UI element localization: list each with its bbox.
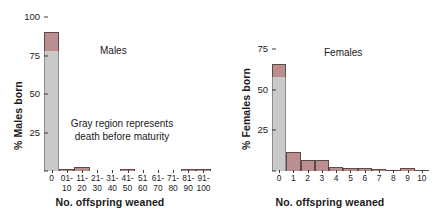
bar-column — [59, 17, 74, 171]
x-tick-mark — [422, 170, 423, 173]
x-tick-mark — [173, 170, 174, 173]
x-tick-label: 3 — [315, 174, 329, 184]
bar-column — [315, 49, 329, 171]
bar-column — [329, 49, 343, 171]
x-tick-label: 41- 50 — [120, 174, 135, 193]
bar-column — [272, 49, 286, 171]
bar-column — [400, 49, 414, 171]
y-tick-mark — [272, 49, 276, 50]
y-tick-label: 75 — [257, 44, 268, 54]
x-tick-label: 91- 100 — [196, 174, 211, 193]
x-tick-mark — [408, 170, 409, 173]
plot-area-females: 255075 — [272, 49, 429, 171]
x-tick-mark — [97, 170, 98, 173]
y-tick-mark — [44, 94, 48, 95]
y-tick-mark — [44, 171, 48, 172]
bar-column — [90, 17, 105, 171]
x-tick-mark — [365, 170, 366, 173]
panel-title-females: Females — [324, 47, 362, 58]
bar-group-females — [272, 49, 429, 171]
x-tick-label: 31- 40 — [105, 174, 120, 193]
x-tick-labels-males: 001- 1011- 2021- 3031- 4041- 5051 6061- … — [44, 174, 211, 193]
x-tick-label: 8 — [386, 174, 400, 184]
y-tick-label: 25 — [257, 126, 268, 136]
x-tick-mark — [52, 170, 53, 173]
x-tick-label: 01- 10 — [59, 174, 74, 193]
x-tick-label: 11- 20 — [74, 174, 89, 193]
annotation-gray-region: Gray region represents death before matu… — [52, 118, 192, 143]
x-tick-mark — [67, 170, 68, 173]
x-tick-mark — [188, 170, 189, 173]
x-tick-mark — [350, 170, 351, 173]
x-tick-mark — [322, 170, 323, 173]
bar-segment-died — [272, 77, 286, 171]
x-tick-label: 81- 90 — [181, 174, 196, 193]
panel-females: % Females born 255075 012345678910 No. o… — [220, 0, 440, 217]
x-tick-label: 51 60 — [135, 174, 150, 193]
x-tick-mark — [143, 170, 144, 173]
x-tick-label: 6 — [358, 174, 372, 184]
y-tick-mark — [272, 89, 276, 90]
y-tick-label: 75 — [29, 51, 40, 61]
bar-column — [415, 49, 429, 171]
x-tick-label: 1 — [286, 174, 300, 184]
bar-column — [74, 17, 89, 171]
bar-column — [358, 49, 372, 171]
bar-column — [135, 17, 150, 171]
y-axis-label-males: % Males born — [12, 81, 24, 150]
bar-column — [386, 49, 400, 171]
x-tick-label: 2 — [301, 174, 315, 184]
y-tick-label: 100 — [24, 12, 40, 22]
bar-column — [343, 49, 357, 171]
bar-column — [105, 17, 120, 171]
bar-column — [181, 17, 196, 171]
x-tick-mark — [308, 170, 309, 173]
bar-column — [150, 17, 165, 171]
x-tick-mark — [158, 170, 159, 173]
x-tick-label: 4 — [329, 174, 343, 184]
x-axis-label-males: No. offspring weaned — [0, 196, 220, 208]
x-tick-mark — [279, 170, 280, 173]
bar-column — [196, 17, 211, 171]
y-tick-label: 25 — [29, 128, 40, 138]
x-tick-label: 7 — [372, 174, 386, 184]
bar-column — [372, 49, 386, 171]
x-tick-mark — [293, 170, 294, 173]
panel-title-males: Males — [100, 45, 127, 56]
bar-column — [286, 49, 300, 171]
bar-segment-survived — [286, 152, 300, 171]
bar-column — [166, 17, 181, 171]
bar-segment-survived — [272, 64, 286, 77]
x-tick-label: 5 — [343, 174, 357, 184]
y-tick-label: 50 — [257, 85, 268, 95]
y-axis-label-females: % Females born — [240, 68, 252, 150]
bar-segment-survived — [44, 32, 59, 50]
bar-group-males — [44, 17, 211, 171]
y-tick-mark — [44, 55, 48, 56]
panel-males: % Males born 255075100 001- 1011- 2021- … — [0, 0, 220, 217]
x-tick-mark — [112, 170, 113, 173]
x-tick-label: 0 — [272, 174, 286, 184]
x-tick-label: 10 — [415, 174, 429, 184]
x-tick-mark — [379, 170, 380, 173]
x-tick-labels-females: 012345678910 — [272, 174, 429, 184]
bar-column — [120, 17, 135, 171]
y-tick-mark — [44, 17, 48, 18]
x-tick-mark — [128, 170, 129, 173]
x-tick-mark — [203, 170, 204, 173]
x-tick-mark — [336, 170, 337, 173]
bar-segment-died — [44, 51, 59, 171]
y-tick-label: 50 — [29, 89, 40, 99]
x-tick-label: 9 — [400, 174, 414, 184]
figure-two-panel-histograms: % Males born 255075100 001- 1011- 2021- … — [0, 0, 440, 217]
x-tick-mark — [393, 170, 394, 173]
plot-area-males: 255075100 — [44, 17, 211, 171]
y-tick-mark — [272, 171, 276, 172]
x-axis-label-females: No. offspring weaned — [220, 196, 440, 208]
x-tick-label: 71- 80 — [166, 174, 181, 193]
x-tick-mark — [82, 170, 83, 173]
y-tick-mark — [44, 132, 48, 133]
x-tick-label: 61- 70 — [150, 174, 165, 193]
bar-column — [301, 49, 315, 171]
y-tick-mark — [272, 130, 276, 131]
